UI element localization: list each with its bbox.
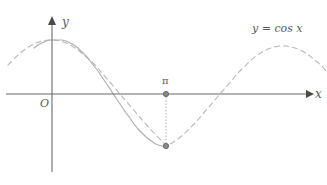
origin-label: O [40, 98, 49, 109]
marked-point-curve-minimum [163, 143, 168, 148]
marked-point-pi-on-axis [163, 91, 168, 96]
cosine-graph-figure: y x O π y = cos x [0, 0, 327, 185]
y-axis-arrowhead [48, 16, 56, 25]
solid-cosine-curve [34, 40, 166, 146]
y-axis-label: y [62, 16, 69, 28]
curve-equation-label: y = cos x [252, 23, 303, 34]
x-axis-arrowhead [306, 90, 314, 98]
pi-tick-label: π [162, 76, 169, 86]
x-axis-label: x [315, 88, 322, 100]
